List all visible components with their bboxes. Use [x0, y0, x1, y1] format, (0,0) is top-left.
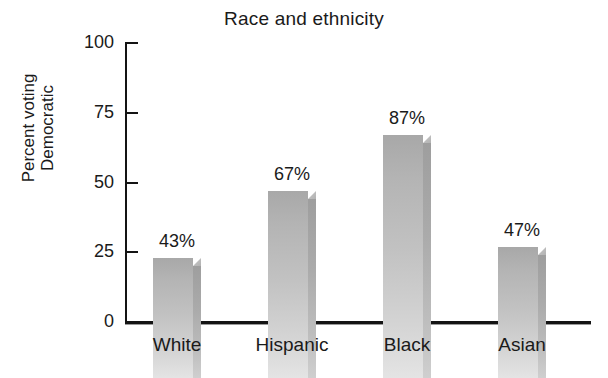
y-tick-label-25: 25	[62, 241, 114, 262]
bar-white: 43%	[153, 57, 201, 378]
y-tick-0	[127, 321, 138, 323]
bar-body-white	[153, 258, 201, 378]
chart-title: Race and ethnicity	[0, 8, 608, 30]
y-tick-100	[127, 42, 138, 44]
y-tick-50	[127, 182, 138, 184]
y-tick-75	[127, 112, 138, 114]
bar-value-hispanic: 67%	[274, 164, 310, 185]
x-tick-label-hispanic: Hispanic	[256, 334, 329, 356]
bar-side-asian	[538, 255, 546, 378]
bar-asian: 47%	[498, 57, 546, 378]
bar-side-white	[193, 266, 201, 378]
y-axis-label-line-1: Percent voting	[19, 74, 38, 183]
y-tick-25	[127, 251, 138, 253]
y-tick-label-0: 0	[62, 311, 114, 332]
y-tick-label-50: 50	[62, 172, 114, 193]
bar-body-asian	[498, 247, 546, 378]
bar-black: 87%	[383, 57, 431, 378]
y-axis-label: Percent voting Democratic	[10, 28, 66, 228]
bar-value-white: 43%	[159, 231, 195, 252]
bar-top-hispanic	[308, 191, 316, 199]
bar-top-black	[423, 135, 431, 143]
y-axis-label-line-2: Democratic	[38, 85, 57, 171]
bar-top-white	[193, 258, 201, 266]
bar-value-asian: 47%	[504, 220, 540, 241]
bar-top-asian	[538, 247, 546, 255]
bar-value-black: 87%	[389, 108, 425, 129]
bar-chart: Race and ethnicity Percent voting Democr…	[0, 0, 608, 378]
x-tick-label-black: Black	[384, 334, 430, 356]
y-tick-label-100: 100	[62, 32, 114, 53]
x-tick-label-asian: Asian	[498, 334, 546, 356]
bar-hispanic: 67%	[268, 57, 316, 378]
bar-front-white	[153, 258, 193, 378]
bar-front-asian	[498, 247, 538, 378]
x-tick-label-white: White	[153, 334, 202, 356]
y-tick-label-75: 75	[62, 102, 114, 123]
